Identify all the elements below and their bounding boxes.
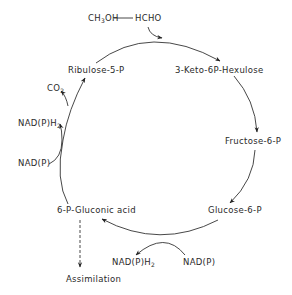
methanol-label: CH3OH [88,13,119,26]
left-nadph-sub: 2 [57,122,61,129]
arrow-gluconic-to-ribulose [60,78,85,204]
co2-sub: 2 [60,87,64,94]
methanol-tail: OH [105,13,119,23]
left-nadp-label: NAD(P) [18,158,50,168]
assimilation-label: Assimilation [66,274,121,284]
arrow-ribulose-to-hexulose [96,42,220,63]
arrow-glucose-to-gluconic [102,219,218,235]
node-fructose-6-p: Fructose-6-P [225,136,281,146]
bottom-cofactor-arrow [136,243,185,256]
node-6-p-gluconic-acid: 6-P-Gluconic acid [57,205,136,215]
node-ribulose-5-p: Ribulose-5-P [68,65,125,75]
left-nadph-main: NAD(P)H [18,118,57,128]
bottom-nadph-main: NAD(P)H [112,257,151,267]
arrow-fructose-to-glucose [230,150,255,203]
left-nadph2-label: NAD(P)H2 [18,118,61,131]
bottom-nadph2-label: NAD(P)H2 [112,257,155,270]
node-glucose-6-p: Glucose-6-P [208,205,262,215]
bottom-nadph-sub: 2 [151,261,155,268]
co2-main: CO [47,83,60,93]
co2-label: CO2 [47,83,64,96]
cycle-arrows [0,0,292,295]
node-3-keto-6p-hexulose: 3-Keto-6P-Hexulose [175,65,264,75]
hcho-entry-arrow [148,27,162,38]
diagram-canvas: CH3OH HCHO Ribulose-5-P 3-Keto-6P-Hexulo… [0,0,292,295]
arrow-hexulose-to-fructose [234,76,257,132]
bottom-nadp-label: NAD(P) [183,257,215,267]
formaldehyde-label: HCHO [135,13,162,23]
methanol-main: CH [88,13,101,23]
